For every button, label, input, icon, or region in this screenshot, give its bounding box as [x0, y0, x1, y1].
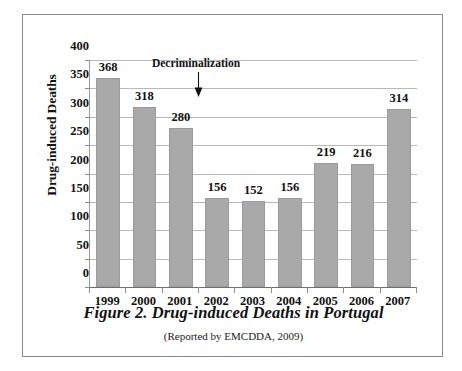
bar[interactable]: [133, 107, 157, 287]
bar-slot: 368: [90, 60, 126, 287]
y-axis-tick-label: 400: [61, 40, 89, 52]
bar-value-label: 314: [381, 91, 417, 106]
bar-value-label: 156: [199, 180, 235, 195]
y-axis-title: Drug-induced Deaths: [44, 60, 60, 210]
x-axis-tickmark: [271, 287, 272, 293]
caption-title: Figure 2. Drug-induced Deaths in Portuga…: [23, 303, 444, 323]
plot-area: 368318280156152156219216314: [89, 60, 417, 287]
bar-slot: 156: [199, 60, 235, 287]
x-axis-tickmark: [416, 287, 417, 293]
y-axis-tick-label: 350: [61, 68, 89, 80]
bar-slot: 280: [163, 60, 199, 287]
y-axis-tick-label: 0: [61, 267, 89, 279]
x-axis-tickmark: [343, 287, 344, 293]
bar[interactable]: [278, 198, 302, 287]
x-axis-tickmark: [89, 287, 90, 293]
bar[interactable]: [96, 78, 120, 287]
bar[interactable]: [314, 163, 338, 287]
y-axis-tick-labels: 050100150200250300350400: [61, 46, 89, 273]
caption-source: (Reported by EMCDDA, 2009): [23, 330, 444, 342]
bar[interactable]: [387, 109, 411, 287]
bar-slot: 156: [272, 60, 308, 287]
bar-value-label: 280: [163, 110, 199, 125]
y-axis-tick-label: 50: [61, 239, 89, 251]
bar-value-label: 216: [344, 146, 380, 161]
bar-slot: 152: [235, 60, 271, 287]
bar-slot: 314: [381, 60, 417, 287]
y-axis-tick-label: 150: [61, 182, 89, 194]
figure-frame: Drug-induced Deaths 05010015020025030035…: [22, 14, 443, 357]
y-axis-tick-label: 100: [61, 210, 89, 222]
x-axis-tickmark: [380, 287, 381, 293]
x-axis-tickmark: [307, 287, 308, 293]
y-axis-tick-label: 300: [61, 97, 89, 109]
bar[interactable]: [242, 201, 266, 287]
bar-slot: 219: [308, 60, 344, 287]
bar-slot: 216: [344, 60, 380, 287]
bar-series: 368318280156152156219216314: [90, 60, 417, 287]
y-axis-tick-label: 200: [61, 154, 89, 166]
bar-value-label: 156: [272, 180, 308, 195]
bar-value-label: 318: [126, 89, 162, 104]
x-axis-tickmark: [162, 287, 163, 293]
bar-value-label: 368: [90, 60, 126, 75]
bar-value-label: 219: [308, 145, 344, 160]
figure-caption: Figure 2. Drug-induced Deaths in Portuga…: [23, 303, 444, 342]
bar-value-label: 152: [235, 183, 271, 198]
bar[interactable]: [169, 128, 193, 287]
x-axis-tickmark: [125, 287, 126, 293]
bar[interactable]: [205, 198, 229, 287]
bar-slot: 318: [126, 60, 162, 287]
bar[interactable]: [351, 164, 375, 287]
y-axis-tick-label: 250: [61, 125, 89, 137]
bar-chart: Drug-induced Deaths 05010015020025030035…: [23, 15, 444, 287]
x-axis-tickmark: [198, 287, 199, 293]
x-axis-tickmark: [234, 287, 235, 293]
